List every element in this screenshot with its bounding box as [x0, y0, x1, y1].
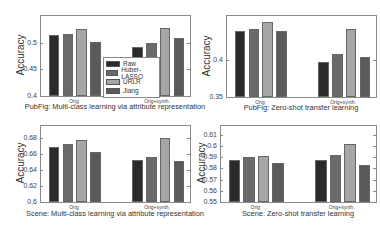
bar-huber-lasso-orig — [63, 34, 74, 96]
bar-jiang-orig — [276, 31, 287, 97]
y-tick-mark — [220, 180, 223, 181]
y-tick-mark — [40, 138, 43, 139]
bar-raw-orig — [229, 160, 240, 202]
y-tick-mark — [226, 60, 229, 61]
y-axis-label: Accuracy — [201, 36, 212, 76]
bar-huber-lasso-orig — [243, 157, 254, 202]
plot-area — [40, 125, 191, 203]
y-tick-mark — [373, 97, 376, 98]
bar-raw-orig — [49, 35, 60, 96]
legend-swatch — [106, 79, 120, 85]
y-tick-mark — [220, 202, 223, 203]
legend-swatch — [106, 70, 118, 76]
bar-urlr-orig-synth — [160, 138, 171, 202]
y-tick-mark — [40, 202, 43, 203]
y-tick-mark — [220, 191, 223, 192]
y-tick-mark — [220, 157, 223, 158]
bar-jiang-orig-synth — [174, 161, 185, 202]
y-tick-mark — [373, 157, 376, 158]
y-tick-mark — [187, 186, 190, 187]
y-tick-mark — [373, 60, 376, 61]
y-axis-label: Accuracy — [15, 36, 26, 76]
bar-urlr-orig-synth — [344, 144, 355, 202]
y-tick-mark — [187, 170, 190, 171]
y-tick-mark — [220, 146, 223, 147]
legend-item: Jiang — [106, 86, 157, 95]
y-tick-mark — [226, 97, 229, 98]
bar-raw-orig-synth — [315, 160, 326, 202]
y-tick-mark — [40, 170, 43, 171]
chart-title: PubFig: Multi-class learning via attribu… — [15, 102, 215, 111]
bar-urlr-orig — [76, 140, 87, 202]
bar-urlr-orig — [76, 29, 87, 96]
chart-title: PubFig: Zero-shot transfer learning — [201, 103, 380, 112]
bar-jiang-orig — [90, 42, 101, 96]
plot-area — [226, 15, 377, 98]
bar-raw-orig-synth — [132, 160, 143, 202]
bar-urlr-orig-synth — [346, 29, 357, 97]
y-tick-mark — [40, 43, 43, 44]
bar-jiang-orig-synth — [359, 165, 370, 202]
y-tick-mark — [187, 96, 190, 97]
bar-jiang-orig — [272, 163, 283, 202]
bar-urlr-orig-synth — [160, 28, 171, 96]
y-axis-label: Accuracy — [196, 144, 207, 184]
legend: RawHuber-LASSOURLRJiang — [103, 57, 160, 98]
y-tick-label: 0.55 — [193, 198, 217, 205]
bar-raw-orig — [49, 147, 60, 202]
bar-raw-orig — [235, 31, 246, 97]
bar-huber-lasso-orig-synth — [146, 157, 157, 202]
y-tick-label: 0.56 — [193, 187, 217, 194]
y-tick-label: 0.68 — [13, 134, 37, 141]
y-axis-label: Accuracy — [15, 144, 26, 184]
y-tick-mark — [187, 202, 190, 203]
y-tick-mark — [187, 138, 190, 139]
bar-huber-lasso-orig-synth — [332, 54, 343, 97]
chart-title: Scene: Zero-shot transfer learning — [198, 209, 380, 218]
legend-label: Jiang — [123, 87, 139, 94]
legend-swatch — [106, 88, 120, 94]
y-tick-mark — [373, 180, 376, 181]
y-tick-mark — [187, 43, 190, 44]
legend-label: URLR — [123, 78, 141, 85]
bar-jiang-orig-synth — [174, 38, 185, 96]
y-tick-mark — [187, 154, 190, 155]
bar-huber-lasso-orig — [63, 144, 74, 202]
y-tick-label: 0.35 — [199, 93, 223, 100]
plot-area — [220, 125, 377, 203]
bar-huber-lasso-orig-synth — [330, 155, 341, 202]
y-tick-mark — [373, 191, 376, 192]
bar-raw-orig-synth — [318, 62, 329, 97]
y-tick-mark — [373, 135, 376, 136]
chart-title: Scene: Multi-class learning via attribut… — [15, 209, 215, 218]
legend-item: Huber-LASSO — [106, 68, 157, 77]
y-tick-mark — [40, 96, 43, 97]
y-tick-mark — [373, 202, 376, 203]
y-tick-mark — [220, 135, 223, 136]
y-tick-mark — [40, 186, 43, 187]
y-tick-mark — [187, 69, 190, 70]
bar-huber-lasso-orig — [249, 29, 260, 97]
y-tick-label: 0.6 — [13, 198, 37, 205]
y-tick-mark — [40, 69, 43, 70]
y-tick-mark — [373, 146, 376, 147]
y-tick-mark — [220, 168, 223, 169]
y-tick-mark — [373, 168, 376, 169]
y-tick-label: 0.4 — [13, 92, 37, 99]
bar-urlr-orig — [258, 156, 269, 202]
y-tick-mark — [40, 154, 43, 155]
bar-jiang-orig — [90, 152, 101, 202]
bar-jiang-orig-synth — [360, 57, 371, 97]
bar-urlr-orig — [262, 22, 273, 97]
legend-swatch — [106, 61, 120, 67]
y-tick-label: 0.61 — [193, 131, 217, 138]
